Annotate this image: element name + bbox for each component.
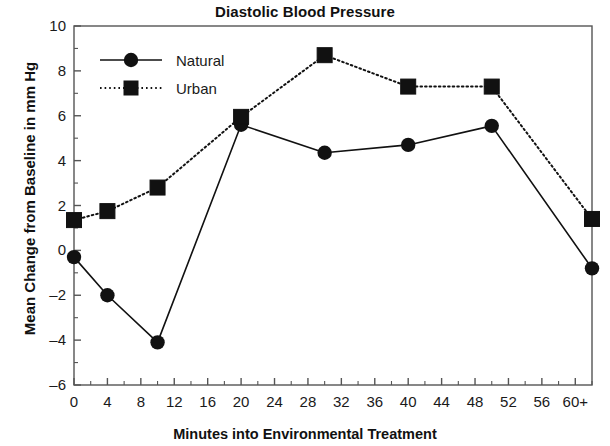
- svg-text:28: 28: [300, 393, 317, 410]
- data-point-natural-30: [317, 146, 331, 160]
- series-line-natural: [74, 125, 592, 343]
- x-tick-labels: 04812162024283236404448525660+: [70, 393, 588, 410]
- data-point-urban-4: [100, 204, 115, 219]
- legend-label-natural: Natural: [176, 52, 224, 69]
- data-point-urban-0: [67, 213, 82, 228]
- svg-text:6: 6: [58, 107, 66, 124]
- svg-text:–4: –4: [49, 331, 66, 348]
- svg-text:36: 36: [366, 393, 383, 410]
- svg-text:32: 32: [333, 393, 350, 410]
- svg-text:8: 8: [137, 393, 145, 410]
- data-point-natural-40: [401, 138, 415, 152]
- data-series: [67, 48, 600, 350]
- chart-container: Diastolic Blood Pressure Mean Change fro…: [0, 0, 610, 446]
- svg-text:–6: –6: [49, 376, 66, 393]
- svg-text:56: 56: [534, 393, 551, 410]
- svg-text:12: 12: [166, 393, 183, 410]
- chart-legend: NaturalUrban: [100, 52, 224, 97]
- data-point-urban-10: [150, 180, 165, 195]
- axes: [74, 26, 592, 385]
- svg-text:4: 4: [58, 152, 66, 169]
- svg-text:0: 0: [58, 241, 66, 258]
- svg-text:24: 24: [266, 393, 283, 410]
- svg-text:52: 52: [500, 393, 517, 410]
- svg-text:48: 48: [467, 393, 484, 410]
- plot-area: 1086420–2–4–6 04812162024283236404448525…: [0, 0, 610, 446]
- svg-text:–2: –2: [49, 286, 66, 303]
- data-point-urban-40: [401, 79, 416, 94]
- data-point-urban-62: [585, 211, 600, 226]
- data-point-natural-10: [150, 335, 164, 349]
- data-point-urban-20: [234, 109, 249, 124]
- svg-text:8: 8: [58, 62, 66, 79]
- svg-text:60+: 60+: [563, 393, 589, 410]
- data-point-natural-50: [485, 119, 499, 133]
- svg-text:4: 4: [103, 393, 111, 410]
- legend-label-urban: Urban: [176, 80, 217, 97]
- axis-ticks: [74, 26, 592, 385]
- svg-text:40: 40: [400, 393, 417, 410]
- svg-text:10: 10: [49, 17, 66, 34]
- svg-text:20: 20: [233, 393, 250, 410]
- svg-text:44: 44: [433, 393, 450, 410]
- data-point-natural-62: [585, 261, 599, 275]
- svg-text:2: 2: [58, 197, 66, 214]
- data-point-urban-50: [484, 79, 499, 94]
- svg-text:0: 0: [70, 393, 78, 410]
- data-point-natural-0: [67, 250, 81, 264]
- y-tick-labels: 1086420–2–4–6: [49, 17, 66, 393]
- data-point-natural-4: [100, 288, 114, 302]
- data-point-urban-30: [317, 48, 332, 63]
- svg-text:16: 16: [199, 393, 216, 410]
